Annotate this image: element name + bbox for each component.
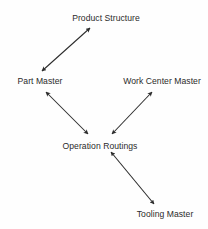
edge-layer <box>0 0 208 229</box>
node-label-tooling-master: Tooling Master <box>137 209 194 219</box>
node-label-work-center-master: Work Center Master <box>123 76 201 86</box>
edge-work-center-master-operation-routings <box>112 92 152 134</box>
edge-operation-routings-tooling-master <box>111 152 154 204</box>
node-label-part-master: Part Master <box>18 76 63 86</box>
edge-part-master-product-structure <box>42 28 90 71</box>
node-label-operation-routings: Operation Routings <box>63 141 138 151</box>
edge-part-master-operation-routings <box>46 92 88 134</box>
node-label-product-structure: Product Structure <box>72 13 140 23</box>
diagram-canvas: Product Structure Part Master Work Cente… <box>0 0 208 229</box>
